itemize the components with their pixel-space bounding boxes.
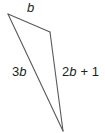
triangle-figure: b 3b 2b + 1: [0, 0, 105, 133]
side-label-top: b: [27, 1, 34, 14]
side-label-left-variable: b: [19, 64, 26, 79]
side-label-right: 2b + 1: [62, 65, 99, 78]
side-label-top-text: b: [27, 0, 34, 15]
side-label-left: 3b: [12, 65, 27, 78]
side-label-right-variable: b: [69, 64, 76, 79]
side-label-right-constant: + 1: [77, 64, 99, 79]
triangle-side-top: [8, 14, 50, 32]
